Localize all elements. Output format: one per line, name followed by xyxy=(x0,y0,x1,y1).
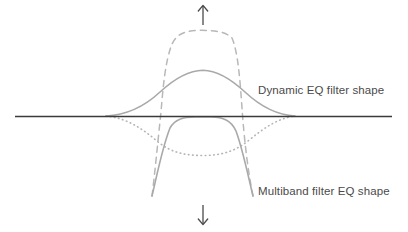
dynamic-eq-cut-dotted-curve xyxy=(106,116,295,156)
multiband-boost-dashed-curve xyxy=(152,30,253,196)
multiband-filter-label: Multiband filter EQ shape xyxy=(258,185,390,198)
cut-down-arrow-icon xyxy=(198,205,207,225)
dynamic-eq-filter-label: Dynamic EQ filter shape xyxy=(258,84,384,97)
eq-filter-shape-diagram: Dynamic EQ filter shape Multiband filter… xyxy=(0,0,408,232)
multiband-cut-solid-curve xyxy=(152,117,253,196)
boost-up-arrow-icon xyxy=(198,5,207,25)
